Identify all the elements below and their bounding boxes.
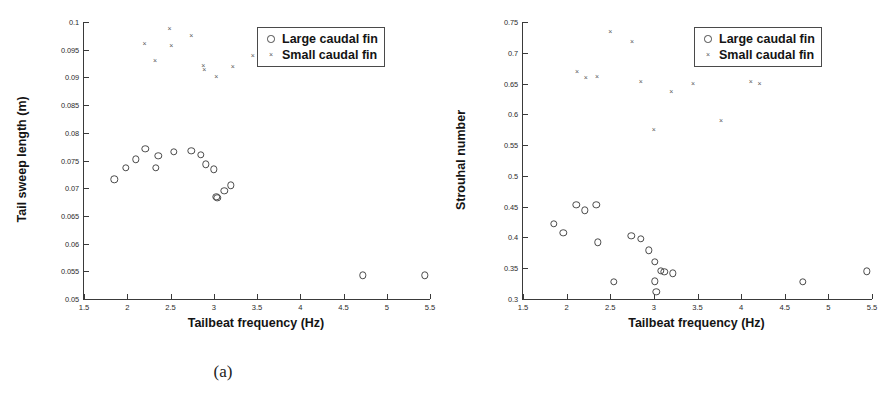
data-point-circle: [421, 271, 428, 278]
y-tick-label: 0.5: [508, 171, 518, 180]
y-tick-label: 0.65: [504, 79, 518, 88]
data-point-cross: [748, 79, 754, 85]
data-point-cross: [669, 89, 675, 95]
y-tick-label: 0.065: [61, 211, 79, 220]
x-tick: [698, 294, 699, 299]
data-point-circle: [132, 156, 139, 163]
x-tick: [84, 294, 85, 299]
x-tick: [430, 294, 431, 299]
y-tick: [523, 237, 528, 238]
data-point-cross: [167, 26, 173, 32]
data-point-circle: [651, 277, 658, 284]
x-tick-label: 3.5: [692, 303, 703, 312]
data-point-cross: [574, 70, 580, 76]
data-point-cross: [152, 58, 158, 64]
x-tick: [171, 294, 172, 299]
y-tick-label: 0.06: [65, 239, 79, 248]
legend-item-large-b[interactable]: Large caudal fin: [699, 31, 815, 47]
y-tick: [84, 133, 89, 134]
y-tick: [84, 244, 89, 245]
x-tick: [567, 294, 568, 299]
data-point-cross: [629, 40, 635, 46]
legend-item-small-a[interactable]: Small caudal fin: [262, 47, 378, 63]
figure-container: 0.050.0550.060.0650.070.0750.080.0850.09…: [0, 0, 896, 407]
panel-a: 0.050.0550.060.0650.070.0750.080.0850.09…: [0, 0, 448, 407]
data-point-cross: [757, 81, 763, 87]
x-tick: [785, 294, 786, 299]
y-tick: [523, 84, 528, 85]
data-point-circle: [559, 229, 566, 236]
y-tick: [84, 299, 89, 300]
y-tick: [84, 105, 89, 106]
data-point-cross: [607, 30, 613, 36]
data-point-cross: [188, 34, 194, 40]
data-point-circle: [799, 278, 806, 285]
data-point-cross: [250, 54, 256, 60]
legend-label-small-b: Small caudal fin: [717, 48, 814, 62]
x-tick-label: 4: [298, 303, 302, 312]
caption-a: (a): [163, 362, 283, 382]
x-tick-label: 2: [125, 303, 129, 312]
data-point-circle: [645, 247, 652, 254]
y-tick: [523, 299, 528, 300]
x-axis-title-a: Tailbeat frequency (Hz): [83, 316, 429, 330]
y-tick: [84, 22, 89, 23]
y-tick-label: 0.4: [508, 233, 518, 242]
y-tick-label: 0.6: [508, 110, 518, 119]
y-tick: [523, 145, 528, 146]
data-point-cross: [718, 118, 724, 124]
y-tick-label: 0.35: [504, 264, 518, 273]
x-tick-label: 2.5: [165, 303, 176, 312]
data-point-circle: [653, 288, 660, 295]
y-axis-title-b: Strouhal number: [454, 97, 468, 222]
y-tick-label: 0.08: [65, 128, 79, 137]
legend-marker-cross-icon: [699, 52, 717, 58]
x-axis-title-b: Tailbeat frequency (Hz): [522, 316, 871, 330]
data-point-circle: [359, 271, 366, 278]
y-tick-label: 0.75: [504, 18, 518, 27]
legend-item-small-b[interactable]: Small caudal fin: [699, 47, 815, 63]
x-tick: [344, 294, 345, 299]
x-tick-label: 2.5: [605, 303, 616, 312]
data-point-circle: [197, 151, 204, 158]
x-tick-label: 2: [565, 303, 569, 312]
x-tick-label: 5: [385, 303, 389, 312]
x-tick-label: 5: [826, 303, 830, 312]
x-tick-label: 3: [212, 303, 216, 312]
legend-a: Large caudal fin Small caudal fin: [257, 27, 385, 67]
data-point-circle: [581, 207, 588, 214]
data-point-circle: [188, 147, 195, 154]
x-tick: [872, 294, 873, 299]
x-tick-label: 3: [652, 303, 656, 312]
panel-b: 0.30.350.40.450.50.550.60.650.70.751.522…: [448, 0, 896, 407]
x-tick-label: 1.5: [518, 303, 529, 312]
data-point-circle: [550, 220, 557, 227]
data-point-circle: [627, 232, 634, 239]
data-point-cross: [651, 127, 657, 133]
data-point-circle: [202, 161, 209, 168]
y-tick-label: 0.7: [508, 48, 518, 57]
data-point-circle: [214, 194, 221, 201]
x-tick-label: 4: [739, 303, 743, 312]
legend-item-large-a[interactable]: Large caudal fin: [262, 31, 378, 47]
x-tick: [300, 294, 301, 299]
data-point-circle: [573, 201, 580, 208]
y-tick-label: 0.09: [65, 73, 79, 82]
x-tick-label: 5.5: [425, 303, 436, 312]
data-point-cross: [169, 44, 175, 50]
data-point-cross: [214, 75, 220, 81]
x-tick: [127, 294, 128, 299]
data-point-cross: [690, 81, 696, 87]
legend-marker-cross-icon: [262, 52, 280, 58]
y-tick: [84, 188, 89, 189]
data-point-circle: [594, 239, 601, 246]
x-tick-label: 4.5: [779, 303, 790, 312]
x-tick-label: 5.5: [867, 303, 878, 312]
x-tick-label: 1.5: [79, 303, 90, 312]
y-tick-label: 0.055: [61, 267, 79, 276]
y-tick-label: 0.07: [65, 184, 79, 193]
data-point-circle: [142, 145, 149, 152]
data-point-circle: [661, 268, 668, 275]
y-tick: [523, 207, 528, 208]
legend-marker-circle-icon: [699, 35, 717, 42]
